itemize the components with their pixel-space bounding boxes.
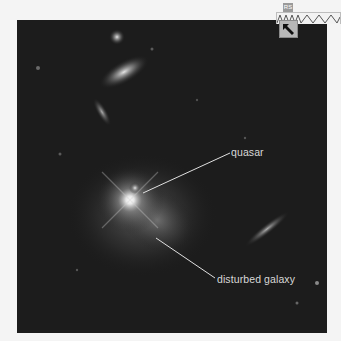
pointer-tool-button[interactable] (279, 20, 298, 38)
star (244, 137, 246, 139)
astronomical-image: quasar disturbed galaxy (17, 20, 327, 333)
star (36, 66, 40, 70)
toolbar-tab[interactable]: RS (283, 3, 293, 12)
star (59, 153, 62, 156)
galaxy-upper (94, 48, 153, 95)
disturbed-galaxy-label: disturbed galaxy (217, 273, 295, 285)
star (296, 302, 299, 305)
star (76, 269, 78, 271)
star (315, 281, 319, 285)
star (151, 48, 154, 51)
sky-field (17, 20, 327, 333)
companion-knot (129, 182, 141, 194)
quasar-label: quasar (231, 146, 264, 158)
galaxy-top (109, 29, 125, 45)
arrow-pointer-icon (280, 21, 297, 37)
star (196, 99, 198, 101)
galaxy-edge-on-right (242, 208, 292, 250)
galaxy-edge-on-left (90, 96, 115, 129)
